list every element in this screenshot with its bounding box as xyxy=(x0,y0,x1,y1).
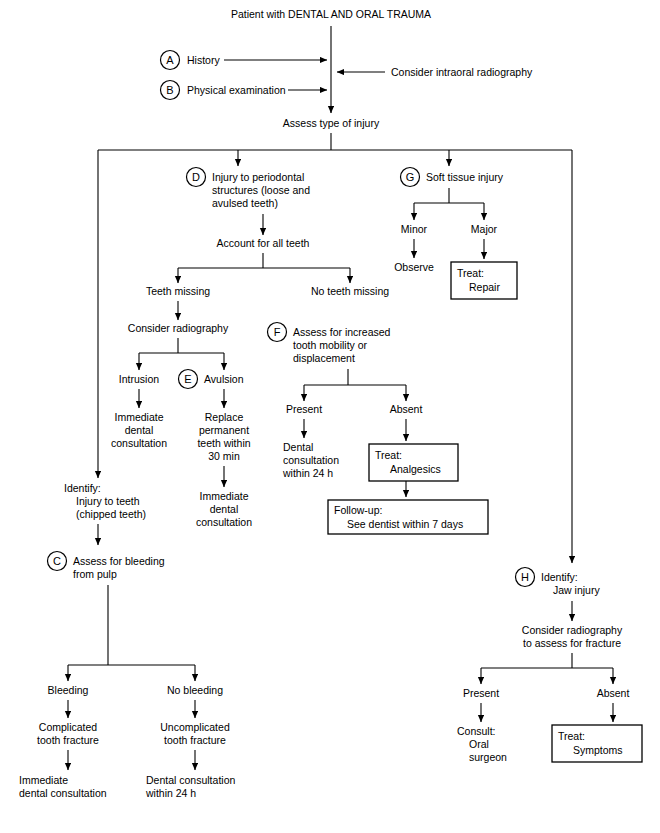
key-letter-b: B xyxy=(166,84,173,96)
node-assess-mobility-2: tooth mobility or xyxy=(293,339,368,351)
node-followup-1: Follow-up: xyxy=(334,504,382,516)
key-letter-a: A xyxy=(166,54,174,66)
node-periodontal-line3: avulsed teeth) xyxy=(212,197,278,209)
node-imm-dental-b2: dental xyxy=(210,503,239,515)
split-assess-mobility xyxy=(304,369,406,385)
node-identify-teeth-2: Injury to teeth xyxy=(76,495,140,507)
node-soft-tissue: Soft tissue injury xyxy=(426,171,504,183)
node-assess-bleeding-2: from pulp xyxy=(73,568,117,580)
node-major: Major xyxy=(471,223,498,235)
node-teeth-missing: Teeth missing xyxy=(146,285,210,297)
node-replace-3: teeth within xyxy=(197,437,250,449)
node-treat-analgesics-1: Treat: xyxy=(375,449,402,461)
node-periodontal-line1: Injury to periodontal xyxy=(212,171,304,183)
dental-trauma-flowchart: Patient with DENTAL AND ORAL TRAUMA A Hi… xyxy=(0,0,660,833)
node-account-teeth: Account for all teeth xyxy=(217,237,310,249)
node-imm-dental-c1: Immediate xyxy=(19,774,68,786)
node-immediate-dental-2: dental xyxy=(125,424,154,436)
node-replace-1: Replace xyxy=(205,411,244,423)
node-identify-teeth-3: (chipped teeth) xyxy=(76,508,146,520)
node-minor: Minor xyxy=(401,223,428,235)
node-consider-radiography: Consider radiography xyxy=(128,322,229,334)
node-present-f: Present xyxy=(286,403,322,415)
node-imm-dental-b1: Immediate xyxy=(199,490,248,502)
node-consider-rad-jaw-1: Consider radiography xyxy=(522,624,623,636)
node-dental-cons-f3: within 24 h xyxy=(282,467,333,479)
node-no-teeth-missing: No teeth missing xyxy=(311,285,389,297)
split-consider-radiography xyxy=(139,338,224,353)
node-consult-1: Consult: xyxy=(457,725,496,737)
node-complicated-2: tooth fracture xyxy=(37,734,99,746)
node-assess-mobility-1: Assess for increased xyxy=(293,326,391,338)
node-physical-exam: Physical examination xyxy=(187,84,286,96)
node-consult-3: surgeon xyxy=(469,751,507,763)
node-imm-dental-b3: consultation xyxy=(196,516,252,528)
node-immediate-dental-3: consultation xyxy=(111,437,167,449)
node-treat-symptoms-1: Treat: xyxy=(558,730,585,742)
key-letter-f: F xyxy=(274,326,281,338)
node-consider-rad-jaw-2: to assess for fracture xyxy=(523,637,621,649)
node-replace-4: 30 min xyxy=(208,450,240,462)
node-followup-2: See dentist within 7 days xyxy=(347,518,463,530)
node-radiography-note: Consider intraoral radiography xyxy=(391,66,533,78)
node-intrusion: Intrusion xyxy=(119,373,159,385)
node-treat-repair-1: Treat: xyxy=(457,267,484,279)
node-dental-cons-f1: Dental xyxy=(283,441,313,453)
split-jaw-radiography xyxy=(481,653,613,668)
key-letter-e: E xyxy=(184,373,191,385)
node-assess-bleeding-1: Assess for bleeding xyxy=(73,555,165,567)
node-root: Patient with DENTAL AND ORAL TRAUMA xyxy=(231,8,431,20)
node-treat-repair-2: Repair xyxy=(469,281,500,293)
node-dental-cons-24h-1: Dental consultation xyxy=(146,774,235,786)
node-treat-analgesics-2: Analgesics xyxy=(390,463,441,475)
node-imm-dental-c2: dental consultation xyxy=(19,787,107,799)
node-periodontal-line2: structures (loose and xyxy=(212,184,310,196)
node-absent-h: Absent xyxy=(597,687,630,699)
node-assess-type: Assess type of injury xyxy=(283,117,380,129)
split-soft-tissue xyxy=(414,188,484,203)
node-complicated-1: Complicated xyxy=(39,721,98,733)
node-identify-jaw-2: Jaw injury xyxy=(553,584,600,596)
node-present-h: Present xyxy=(463,687,499,699)
split-assess-bleeding xyxy=(68,585,195,665)
node-absent-f: Absent xyxy=(390,403,423,415)
node-bleeding: Bleeding xyxy=(48,684,89,696)
node-uncomplicated-2: tooth fracture xyxy=(164,734,226,746)
node-no-bleeding: No bleeding xyxy=(167,684,223,696)
node-treat-symptoms-2: Symptoms xyxy=(573,744,623,756)
key-letter-d: D xyxy=(192,171,200,183)
key-letter-c: C xyxy=(53,555,61,567)
key-letter-g: G xyxy=(406,171,415,183)
split-account-teeth xyxy=(178,253,350,268)
node-consult-2: Oral xyxy=(469,738,489,750)
node-replace-2: permanent xyxy=(199,424,249,436)
node-identify-jaw-1: Identify: xyxy=(541,571,578,583)
node-immediate-dental-1: Immediate xyxy=(114,411,163,423)
node-assess-mobility-3: displacement xyxy=(293,352,355,364)
key-letter-h: H xyxy=(521,571,529,583)
node-dental-cons-f2: consultation xyxy=(283,454,339,466)
node-history: History xyxy=(187,54,220,66)
node-avulsion: Avulsion xyxy=(204,373,244,385)
node-observe: Observe xyxy=(394,261,434,273)
node-identify-teeth-1: Identify: xyxy=(64,482,101,494)
node-uncomplicated-1: Uncomplicated xyxy=(160,721,230,733)
node-dental-cons-24h-2: within 24 h xyxy=(145,787,196,799)
